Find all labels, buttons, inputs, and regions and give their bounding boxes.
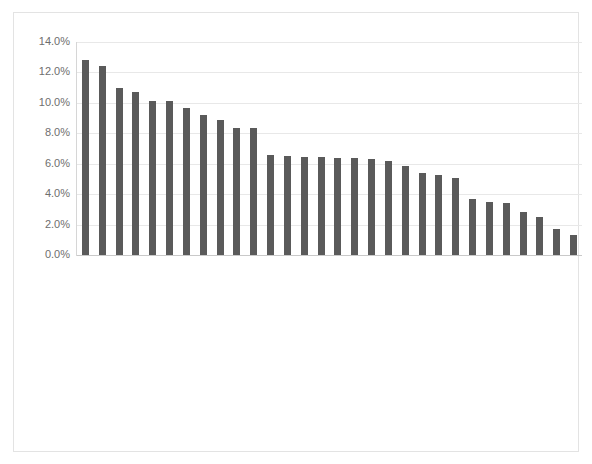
- x-axis-tick-labels: Weapons and TacticsIntelligence FlightCi…: [77, 258, 582, 458]
- bar[interactable]: [520, 212, 527, 255]
- bar-slot: [481, 42, 498, 255]
- bar[interactable]: [284, 156, 291, 255]
- bar[interactable]: [503, 203, 510, 255]
- bar[interactable]: [334, 158, 341, 255]
- y-axis-tick-label: 4.0%: [18, 187, 70, 199]
- bar[interactable]: [82, 60, 89, 255]
- y-axis-line: [76, 42, 77, 256]
- bar-slot: [565, 42, 582, 255]
- bar-slot: [363, 42, 380, 255]
- bar-slot: [414, 42, 431, 255]
- y-axis-tick-label: 10.0%: [18, 96, 70, 108]
- bar[interactable]: [116, 88, 123, 255]
- bar[interactable]: [385, 161, 392, 255]
- bar[interactable]: [217, 120, 224, 255]
- x-axis-line: [77, 255, 582, 256]
- chart-container: 0.0%2.0%4.0%6.0%8.0%10.0%12.0%14.0% Weap…: [13, 12, 579, 452]
- bar[interactable]: [351, 158, 358, 255]
- y-axis-tick-label: 12.0%: [18, 65, 70, 77]
- bar[interactable]: [233, 128, 240, 255]
- bar[interactable]: [486, 202, 493, 255]
- bar-slot: [111, 42, 128, 255]
- bar-slot: [313, 42, 330, 255]
- bar[interactable]: [166, 101, 173, 255]
- bar[interactable]: [402, 166, 409, 255]
- bar[interactable]: [469, 199, 476, 255]
- bar[interactable]: [318, 157, 325, 255]
- bar[interactable]: [301, 157, 308, 255]
- bar-slot: [296, 42, 313, 255]
- bar-slot: [128, 42, 145, 255]
- bar-slot: [498, 42, 515, 255]
- y-axis-tick-label: 0.0%: [18, 248, 70, 260]
- bar[interactable]: [200, 115, 207, 255]
- bar-slot: [330, 42, 347, 255]
- bar[interactable]: [149, 101, 156, 255]
- bar[interactable]: [267, 155, 274, 255]
- y-axis-tick-label: 8.0%: [18, 126, 70, 138]
- bar-slot: [262, 42, 279, 255]
- y-axis-tick-label: 2.0%: [18, 218, 70, 230]
- bar-slot: [245, 42, 262, 255]
- bar[interactable]: [183, 108, 190, 255]
- bar[interactable]: [99, 66, 106, 255]
- bar[interactable]: [553, 229, 560, 255]
- bar[interactable]: [435, 175, 442, 255]
- bar-slot: [279, 42, 296, 255]
- bar-slot: [94, 42, 111, 255]
- bar-slot: [548, 42, 565, 255]
- bar-slot: [178, 42, 195, 255]
- bar-slot: [515, 42, 532, 255]
- bar[interactable]: [419, 173, 426, 255]
- bar[interactable]: [570, 235, 577, 255]
- bar-slot: [77, 42, 94, 255]
- bar-slot: [144, 42, 161, 255]
- bar-slot: [397, 42, 414, 255]
- bar-slot: [195, 42, 212, 255]
- bar[interactable]: [250, 128, 257, 255]
- plot-area: [77, 42, 582, 255]
- bar-slot: [447, 42, 464, 255]
- bar-slot: [229, 42, 246, 255]
- bar-slot: [161, 42, 178, 255]
- bar[interactable]: [132, 92, 139, 255]
- bar[interactable]: [536, 217, 543, 255]
- bar[interactable]: [368, 159, 375, 255]
- bar-slot: [532, 42, 549, 255]
- y-axis-tick-label: 14.0%: [18, 35, 70, 47]
- bar-slot: [212, 42, 229, 255]
- y-axis-tick-labels: 0.0%2.0%4.0%6.0%8.0%10.0%12.0%14.0%: [14, 42, 70, 255]
- bar-slot: [431, 42, 448, 255]
- bar[interactable]: [452, 178, 459, 255]
- y-axis-tick-label: 6.0%: [18, 157, 70, 169]
- bar-slot: [346, 42, 363, 255]
- bar-slot: [464, 42, 481, 255]
- bar-slot: [380, 42, 397, 255]
